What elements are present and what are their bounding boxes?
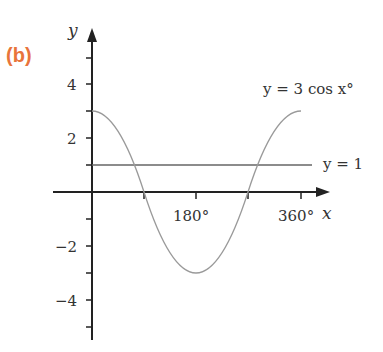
x-ticks bbox=[144, 192, 301, 199]
y-tick-label-2: 2 bbox=[67, 130, 77, 148]
y-tick-label-neg2: −2 bbox=[55, 238, 77, 256]
x-tick-label-360: 360° bbox=[278, 207, 314, 225]
graph: y x 4 2 −2 −4 180° 360° y = 3 cos x° y =… bbox=[0, 0, 383, 352]
y-tick-label-4: 4 bbox=[67, 76, 77, 94]
y-axis-arrow-icon bbox=[87, 28, 97, 42]
y-axis-label: y bbox=[67, 20, 78, 40]
x-axis-arrow-icon bbox=[316, 187, 330, 197]
line-label: y = 1 bbox=[322, 155, 363, 173]
curve-label: y = 3 cos x° bbox=[262, 80, 354, 98]
x-tick-label-180: 180° bbox=[173, 207, 209, 225]
x-axis-label: x bbox=[322, 203, 332, 223]
y-tick-label-neg4: −4 bbox=[55, 292, 77, 310]
